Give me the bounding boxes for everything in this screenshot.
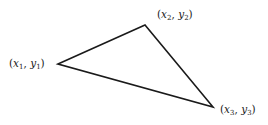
vertex-label-2: (x2, y2)	[157, 9, 193, 22]
triangle-outline	[58, 25, 213, 107]
vertex-label-1: (x1, y1)	[9, 58, 45, 71]
triangle-diagram: (x1, y1) (x2, y2) (x3, y3)	[0, 0, 268, 125]
vertex-label-3: (x3, y3)	[220, 104, 256, 117]
